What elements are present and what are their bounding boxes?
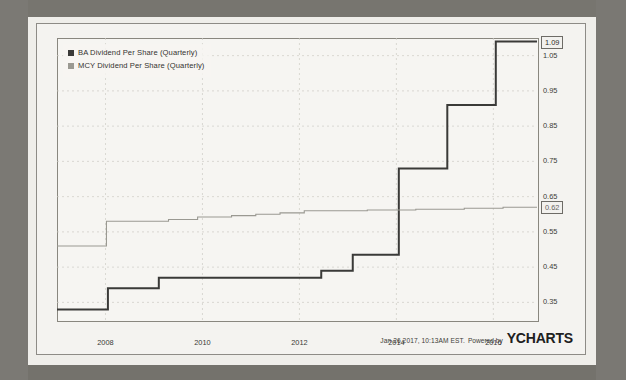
scan-border-left xyxy=(0,0,28,380)
chart-canvas xyxy=(57,38,537,320)
y-axis-tick-label: 0.45 xyxy=(543,262,557,271)
legend-item-mcy[interactable]: MCY Dividend Per Share (Quarterly) xyxy=(68,60,205,71)
chart-card: BA Dividend Per Share (Quarterly) MCY Di… xyxy=(36,23,586,355)
legend-label-ba: BA Dividend Per Share (Quarterly) xyxy=(78,48,197,57)
plot-area: BA Dividend Per Share (Quarterly) MCY Di… xyxy=(57,38,537,320)
callout-ba-value: 1.09 xyxy=(541,36,563,49)
y-axis-tick-label: 0.55 xyxy=(543,227,557,236)
legend-label-mcy: MCY Dividend Per Share (Quarterly) xyxy=(78,61,205,70)
chart-legend: BA Dividend Per Share (Quarterly) MCY Di… xyxy=(63,44,211,77)
ycharts-wordmark: YCHARTS xyxy=(507,330,573,346)
y-axis-tick-label: 0.85 xyxy=(543,121,557,130)
x-axis-tick-label: 2012 xyxy=(291,338,307,347)
scan-border-top xyxy=(0,0,626,17)
y-axis-tick-label: 1.05 xyxy=(543,51,557,60)
y-axis-tick-label: 0.35 xyxy=(543,297,557,306)
scan-border-bottom xyxy=(0,365,626,380)
scanned-page: BA Dividend Per Share (Quarterly) MCY Di… xyxy=(0,0,626,380)
legend-swatch-ba xyxy=(68,50,74,56)
y-axis-tick-label: 0.75 xyxy=(543,156,557,165)
y-axis-tick-label: 0.95 xyxy=(543,86,557,95)
x-axis-tick-label: 2008 xyxy=(97,338,113,347)
legend-item-ba[interactable]: BA Dividend Per Share (Quarterly) xyxy=(68,47,205,58)
powered-by-label: Powered by xyxy=(468,337,503,344)
y-axis-tick-label: 0.65 xyxy=(543,192,557,201)
callout-mcy-value: 0.62 xyxy=(541,201,563,214)
timestamp-label: Jan 26 2017, 10:13AM EST. xyxy=(380,337,465,344)
chart-footer: Jan 26 2017, 10:13AM EST. Powered by YCH… xyxy=(380,330,573,346)
paper-sheet: BA Dividend Per Share (Quarterly) MCY Di… xyxy=(28,17,596,365)
x-axis-tick-label: 2010 xyxy=(194,338,210,347)
legend-swatch-mcy xyxy=(68,63,74,69)
series-line-ba xyxy=(57,42,537,310)
series-line-mcy xyxy=(57,207,537,246)
scan-border-right xyxy=(596,0,626,380)
